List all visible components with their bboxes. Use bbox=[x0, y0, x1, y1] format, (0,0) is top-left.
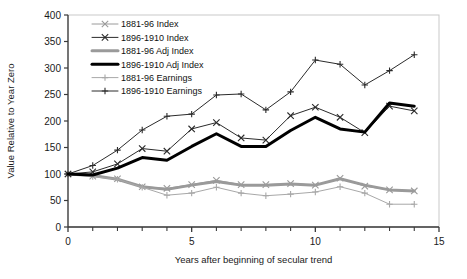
x-tick-label: 0 bbox=[65, 236, 71, 247]
y-tick-label: 400 bbox=[44, 10, 61, 21]
legend-item-3[interactable]: 1896-1910 Adj Index bbox=[92, 60, 204, 70]
x-axis-title: Years after beginning of secular trend bbox=[175, 254, 333, 265]
y-tick-label: 0 bbox=[55, 222, 61, 233]
data-point-marker bbox=[188, 190, 194, 196]
data-point-marker bbox=[213, 184, 219, 190]
y-tick-label: 150 bbox=[44, 142, 61, 153]
legend-label: 1896-1910 Index bbox=[121, 33, 189, 43]
data-point-marker bbox=[312, 104, 318, 110]
chart-container: 050100150200250300350400051015Years afte… bbox=[0, 0, 467, 279]
data-point-marker bbox=[287, 191, 293, 197]
x-tick-label: 10 bbox=[310, 236, 322, 247]
legend-item-0[interactable]: 1881-96 Index bbox=[92, 19, 179, 29]
data-point-marker bbox=[188, 126, 194, 132]
data-point-marker bbox=[337, 184, 343, 190]
legend-item-5[interactable]: 1896-1910 Earnings bbox=[92, 86, 203, 96]
data-point-marker bbox=[287, 113, 293, 119]
data-point-marker bbox=[238, 91, 244, 97]
data-point-marker bbox=[90, 162, 96, 168]
data-point-marker bbox=[411, 201, 417, 207]
series-1881-96-earnings bbox=[65, 171, 418, 208]
series-1896-1910-adj-index bbox=[68, 103, 414, 175]
data-point-marker bbox=[386, 67, 392, 73]
legend-label: 1881-96 Index bbox=[121, 19, 179, 29]
legend-item-1[interactable]: 1896-1910 Index bbox=[92, 33, 189, 43]
y-axis-title: Value Relative to Year Zero bbox=[5, 64, 16, 179]
legend-item-4[interactable]: 1881-96 Earnings bbox=[92, 73, 193, 83]
data-point-marker bbox=[386, 201, 392, 207]
legend-label: 1881-96 Adj Index bbox=[121, 46, 194, 56]
y-tick-label: 300 bbox=[44, 63, 61, 74]
y-tick-label: 50 bbox=[50, 195, 62, 206]
y-tick-label: 100 bbox=[44, 169, 61, 180]
series-1896-1910-earnings bbox=[65, 52, 418, 178]
y-tick-label: 200 bbox=[44, 116, 61, 127]
data-point-marker bbox=[411, 52, 417, 58]
data-point-marker bbox=[263, 193, 269, 199]
data-point-marker bbox=[312, 189, 318, 195]
data-point-marker bbox=[362, 190, 368, 196]
data-point-marker bbox=[102, 74, 108, 80]
legend-label: 1881-96 Earnings bbox=[121, 73, 193, 83]
series-1896-1910-index bbox=[65, 103, 418, 177]
y-tick-label: 350 bbox=[44, 36, 61, 47]
x-tick-label: 15 bbox=[433, 236, 445, 247]
series-line bbox=[68, 103, 414, 175]
legend-item-2[interactable]: 1881-96 Adj Index bbox=[92, 46, 194, 56]
series-line bbox=[68, 55, 414, 174]
data-point-marker bbox=[164, 113, 170, 119]
data-point-marker bbox=[238, 190, 244, 196]
line-chart: 050100150200250300350400051015Years afte… bbox=[0, 0, 467, 279]
y-tick-label: 250 bbox=[44, 89, 61, 100]
data-point-marker bbox=[164, 192, 170, 198]
legend-label: 1896-1910 Adj Index bbox=[121, 60, 204, 70]
series-line bbox=[68, 106, 414, 174]
legend-label: 1896-1910 Earnings bbox=[121, 86, 203, 96]
data-point-marker bbox=[102, 88, 108, 94]
data-point-marker bbox=[213, 119, 219, 125]
x-tick-label: 5 bbox=[189, 236, 195, 247]
data-point-marker bbox=[337, 114, 343, 120]
